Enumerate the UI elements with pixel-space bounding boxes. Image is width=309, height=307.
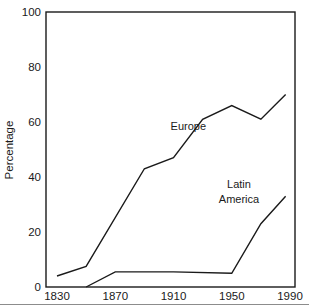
x-tick-label-1830: 1830 [44,290,70,302]
y-tick-label-40: 40 [28,171,41,183]
x-tick-label-1870: 1870 [103,290,129,302]
series-label-latin: Latin [227,178,251,190]
y-axis-title: Percentage [3,121,15,180]
plot-frame [46,12,295,287]
x-tick-label-1990: 1990 [277,290,303,302]
x-tick-label-1910: 1910 [161,290,187,302]
y-tick-label-80: 80 [28,61,41,73]
series-label-europe: Europe [171,120,206,132]
y-tick-label-0: 0 [35,281,41,293]
line-chart: 100 80 60 40 20 0 Percentage Europe Lati… [0,0,309,307]
y-tick-label-100: 100 [22,6,41,18]
series-label-america: America [219,193,260,205]
y-tick-label-20: 20 [28,226,41,238]
y-tick-label-60: 60 [28,116,41,128]
chart-figure: 100 80 60 40 20 0 Percentage Europe Lati… [0,0,309,307]
x-tick-label-1950: 1950 [219,290,245,302]
series-line-latin-america [86,196,286,287]
